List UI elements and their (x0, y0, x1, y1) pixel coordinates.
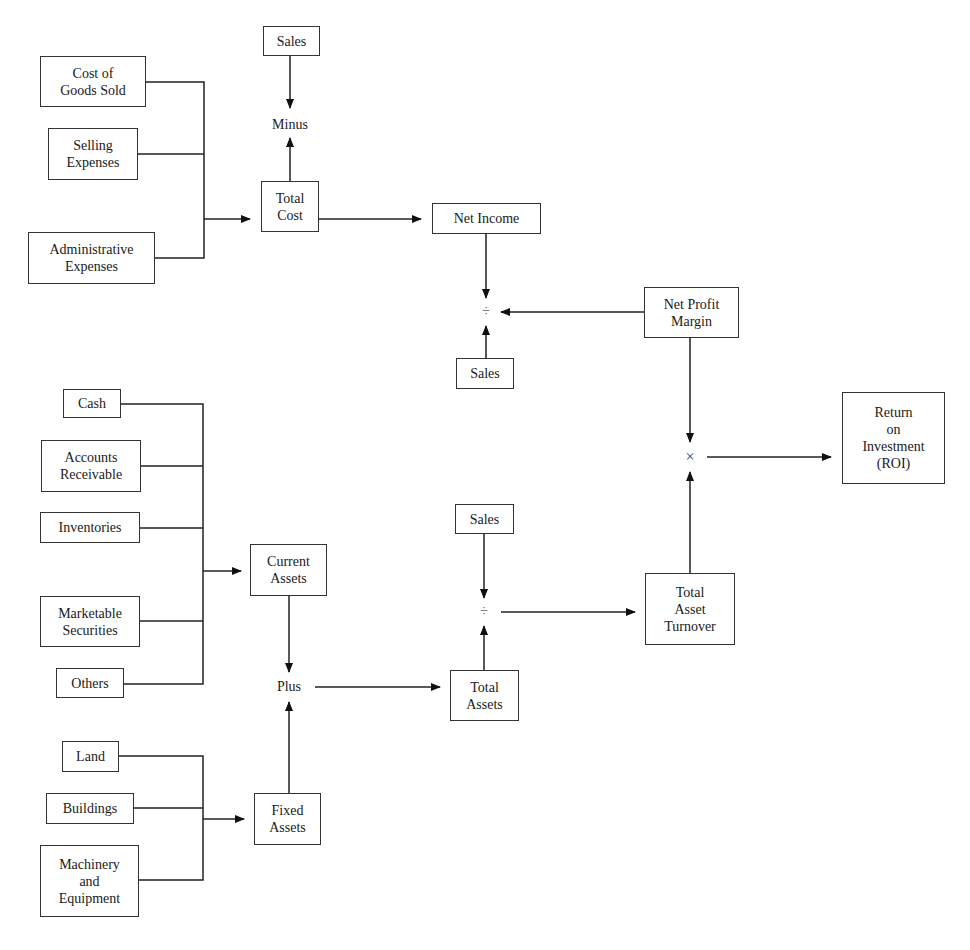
administrative-expenses-box: Administrative Expenses (28, 232, 155, 284)
plus-operator: Plus (277, 679, 301, 695)
accounts-receivable-box: Accounts Receivable (41, 440, 141, 492)
current-assets-box: Current Assets (250, 544, 327, 596)
sales-box-top: Sales (263, 26, 320, 56)
cost-of-goods-sold-box: Cost of Goods Sold (40, 56, 146, 107)
buildings-box: Buildings (46, 793, 134, 824)
sales-box-low: Sales (455, 504, 514, 534)
multiply-operator: × (685, 449, 694, 465)
cash-box: Cash (63, 389, 121, 418)
selling-expenses-box: Selling Expenses (48, 128, 138, 180)
others-box: Others (56, 668, 124, 698)
net-income-box: Net Income (432, 203, 541, 234)
minus-operator: Minus (272, 117, 308, 133)
fixed-assets-box: Fixed Assets (254, 793, 321, 845)
sales-box-mid: Sales (456, 358, 514, 389)
net-profit-margin-box: Net Profit Margin (644, 287, 739, 338)
machinery-equipment-box: Machinery and Equipment (40, 845, 139, 917)
total-cost-box: Total Cost (261, 181, 319, 232)
total-asset-turnover-box: Total Asset Turnover (645, 573, 735, 645)
divide-operator-top: ÷ (482, 304, 490, 320)
connector-lines (0, 0, 970, 950)
marketable-securities-box: Marketable Securities (40, 596, 140, 647)
inventories-box: Inventories (40, 512, 140, 543)
total-assets-box: Total Assets (450, 670, 519, 721)
land-box: Land (62, 741, 119, 772)
divide-operator-bottom: ÷ (480, 604, 488, 620)
roi-box: Return on Investment (ROI) (842, 392, 945, 484)
